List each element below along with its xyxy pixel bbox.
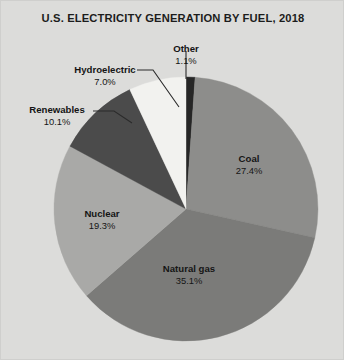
- pie-label-other-value: 1.1%: [157, 55, 215, 67]
- pie-label-renewables-value: 10.1%: [9, 116, 105, 128]
- pie-label-natural-gas-value: 35.1%: [145, 275, 233, 287]
- pie-label-other: Other 1.1%: [157, 43, 215, 67]
- pie-label-nuclear-value: 19.3%: [64, 220, 140, 232]
- pie-label-hydroelectric-name: Hydroelectric: [55, 64, 155, 76]
- pie-label-coal-name: Coal: [210, 153, 288, 165]
- pie-label-other-name: Other: [157, 43, 215, 55]
- pie-label-nuclear: Nuclear 19.3%: [64, 208, 140, 232]
- pie-label-nuclear-name: Nuclear: [64, 208, 140, 220]
- pie-label-natural-gas: Natural gas 35.1%: [145, 263, 233, 287]
- pie-label-renewables-name: Renewables: [9, 104, 105, 116]
- pie-label-natural-gas-name: Natural gas: [145, 263, 233, 275]
- pie-label-renewables: Renewables 10.1%: [9, 104, 105, 128]
- chart-figure: U.S. ELECTRICITY GENERATION BY FUEL, 201…: [0, 0, 344, 360]
- pie-label-coal-value: 27.4%: [210, 165, 288, 177]
- pie-label-coal: Coal 27.4%: [210, 153, 288, 177]
- pie-label-hydroelectric-value: 7.0%: [55, 76, 155, 88]
- pie-label-hydroelectric: Hydroelectric 7.0%: [55, 64, 155, 88]
